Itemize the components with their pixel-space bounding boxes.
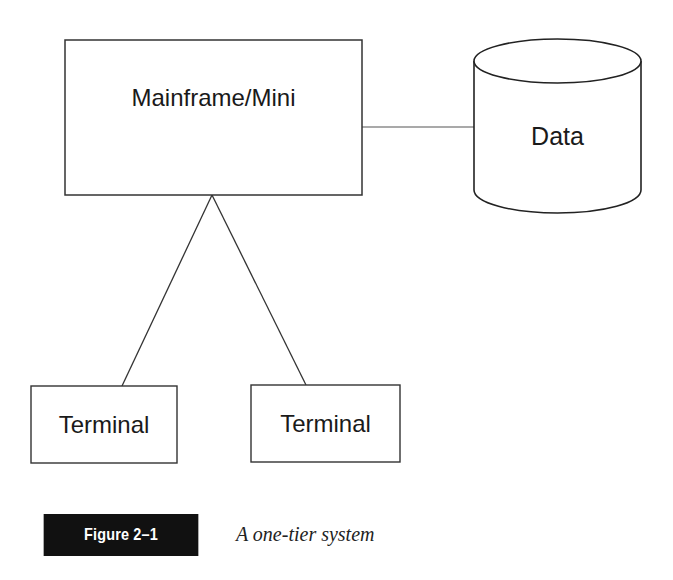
mainframe-label: Mainframe/Mini [65, 40, 362, 156]
data-label: Data [474, 100, 641, 172]
terminal-label-1: Terminal [31, 386, 177, 463]
figure-number-badge: Figure 2–1 [44, 514, 199, 556]
edge-mainframe-terminal-2 [212, 195, 306, 385]
terminal-label-2: Terminal [251, 385, 400, 462]
edge-mainframe-terminal-1 [122, 195, 212, 386]
figure-caption: A one-tier system [236, 523, 375, 546]
